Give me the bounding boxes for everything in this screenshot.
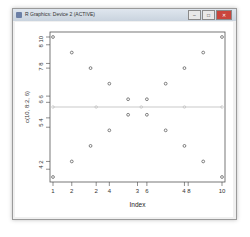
- y-tick-label: 6 6: [38, 94, 44, 103]
- data-point: [70, 160, 73, 163]
- x-tick-label: 2: [95, 188, 99, 194]
- data-point: [108, 82, 111, 85]
- r-graphics-window: R Graphics: Device 2 (ACTIVE) – □ ✕ 1224…: [12, 8, 237, 220]
- window-title: R Graphics: Device 2 (ACTIVE): [25, 11, 95, 17]
- y-tick-label: 7 8: [38, 62, 44, 71]
- data-point: [145, 98, 148, 101]
- data-point: [127, 98, 130, 101]
- data-point: [52, 176, 55, 179]
- data-point: [52, 36, 55, 39]
- scatter-plot: 1224364 8104 25 46 67 88 10Indexc(10, 8:…: [15, 22, 233, 217]
- data-point: [202, 51, 205, 54]
- x-tick-label: 3: [136, 188, 140, 194]
- data-point: [127, 113, 130, 116]
- data-point: [183, 67, 186, 70]
- title-bar[interactable]: R Graphics: Device 2 (ACTIVE) – □ ✕: [13, 9, 236, 21]
- data-point: [183, 144, 186, 147]
- close-button[interactable]: ✕: [216, 10, 232, 20]
- x-tick-label: 2: [70, 188, 74, 194]
- plot-canvas: 1224364 8104 25 46 67 88 10Indexc(10, 8:…: [15, 22, 233, 217]
- maximize-button[interactable]: □: [202, 10, 215, 20]
- x-tick-label: 1: [51, 188, 55, 194]
- x-tick-label: 6: [145, 188, 149, 194]
- r-app-icon: [16, 12, 22, 18]
- x-axis-label: Index: [130, 201, 147, 208]
- data-point: [164, 129, 167, 132]
- y-tick-label: 5 4: [38, 118, 44, 127]
- data-point: [70, 51, 73, 54]
- x-tick-label: 4 8: [182, 188, 191, 194]
- data-point: [89, 67, 92, 70]
- minimize-button[interactable]: –: [188, 10, 201, 20]
- data-point: [145, 113, 148, 116]
- data-point: [221, 176, 224, 179]
- data-point: [221, 36, 224, 39]
- y-tick-label: 8 10: [38, 35, 44, 47]
- y-tick-label: 4 2: [38, 160, 44, 169]
- y-axis-label: c(10, 8:2, 6): [24, 91, 30, 123]
- data-point: [202, 160, 205, 163]
- data-point: [89, 144, 92, 147]
- data-point: [164, 82, 167, 85]
- x-tick-label: 4: [108, 188, 112, 194]
- data-point: [108, 129, 111, 132]
- x-tick-label: 10: [219, 188, 226, 194]
